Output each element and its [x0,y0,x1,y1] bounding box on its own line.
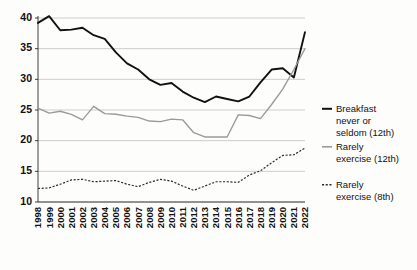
x-tick-label: 2019 [266,207,277,228]
legend-label: seldom (12th) [336,127,394,138]
y-tick-label: 10 [20,195,32,207]
y-tick-label: 25 [20,103,32,115]
y-tick-label: 30 [20,72,32,84]
x-tick-label: 2003 [88,207,99,228]
gridlines-group [38,18,305,202]
legend-label: never or [336,115,371,126]
y-tick-label: 35 [20,41,32,53]
x-tick-label: 2000 [55,207,66,228]
x-tick-label: 2018 [255,207,266,228]
chart-canvas: 10152025303540 1998199920002001200220032… [0,0,417,270]
x-tick-label: 2001 [66,206,77,228]
x-tick-label: 2014 [210,206,221,228]
x-tick-label: 2020 [277,207,288,228]
chart-legend: Breakfastnever orseldom (12th)Rarelyexer… [322,103,399,202]
legend-label: exercise (8th) [336,191,394,202]
x-tick-label: 1999 [44,207,55,228]
series-line [38,49,305,137]
x-tick-label: 2011 [177,206,188,227]
x-tick-label: 2015 [222,206,233,228]
y-axis-tick-labels: 10152025303540 [20,11,38,207]
x-tick-label: 2002 [77,207,88,228]
x-tick-label: 2021 [288,206,299,228]
y-tick-label: 20 [20,133,32,145]
x-tick-label: 2010 [166,207,177,228]
line-chart: 10152025303540 1998199920002001200220032… [0,0,417,270]
x-tick-label: 2013 [199,207,210,228]
x-tick-label: 2006 [121,207,132,228]
legend-label: exercise (12th) [336,153,399,164]
legend-label: Rarely [336,179,364,190]
x-tick-label: 2005 [110,206,121,228]
x-tick-label: 2007 [133,207,144,228]
y-tick-label: 15 [20,164,32,176]
data-series-group [38,16,305,190]
x-tick-label: 2004 [99,206,110,228]
x-tick-label: 2016 [233,207,244,228]
y-tick-label: 40 [20,11,32,23]
x-tick-label: 2012 [188,207,199,228]
x-tick-label: 2017 [244,207,255,228]
x-tick-label: 2008 [144,207,155,228]
x-tick-label: 2009 [155,207,166,228]
legend-label: Breakfast [336,103,376,114]
x-axis-tick-labels: 1998199920002001200220032004200520062007… [32,206,310,228]
x-tick-label: 2022 [299,207,310,228]
axis-group [38,16,305,202]
series-line [38,148,305,190]
series-line [38,16,305,102]
legend-label: Rarely [336,141,364,152]
x-tick-label: 1998 [32,207,43,228]
